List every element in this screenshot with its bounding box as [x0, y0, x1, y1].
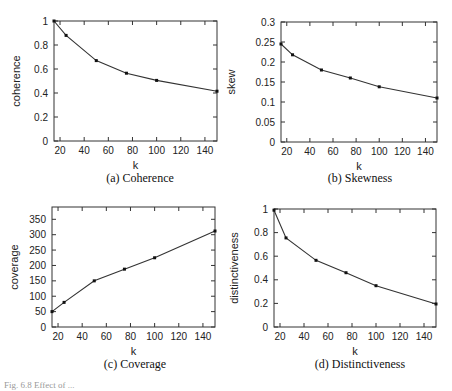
x-tick-label: 120 [172, 145, 189, 156]
x-axis-label: k [133, 159, 139, 171]
x-tick-label: 120 [170, 331, 187, 342]
y-tick-label: 1 [262, 204, 268, 215]
plot-frame [52, 207, 215, 327]
y-tick-label: 0.6 [254, 251, 268, 262]
data-point [285, 236, 288, 239]
caption-coverage: (c) Coverage [65, 357, 205, 372]
y-axis-label: distinctiveness [228, 232, 240, 304]
chart-coverage: 20406080100120140050100150200250300350kc… [0, 0, 452, 391]
data-point [216, 90, 219, 93]
y-tick-label: 0.3 [261, 17, 275, 28]
y-tick-label: 0.2 [254, 298, 268, 309]
y-tick-label: 300 [29, 229, 46, 240]
y-tick-label: 0.2 [34, 112, 48, 123]
y-tick-label: 0 [269, 137, 275, 148]
y-tick-label: 1 [42, 16, 48, 27]
x-tick-label: 80 [346, 331, 358, 342]
data-point [214, 230, 217, 233]
x-axis-label: k [352, 345, 358, 357]
x-tick-label: 20 [52, 331, 64, 342]
data-point [95, 59, 98, 62]
caption-skewness: (b) Skewness [290, 171, 430, 186]
y-tick-label: 200 [29, 260, 46, 271]
data-point [51, 310, 54, 313]
plot-frame [274, 209, 436, 327]
y-axis-label: coverage [8, 244, 20, 289]
data-point [273, 209, 276, 212]
x-tick-label: 140 [197, 145, 214, 156]
y-tick-label: 0.6 [34, 64, 48, 75]
y-tick-label: 350 [29, 214, 46, 225]
plot-frame [54, 21, 217, 141]
data-line [52, 231, 215, 312]
x-tick-label: 40 [79, 145, 91, 156]
x-tick-label: 140 [195, 331, 212, 342]
x-tick-label: 80 [351, 146, 363, 157]
y-tick-label: 0 [42, 136, 48, 147]
data-point [93, 279, 96, 282]
y-tick-label: 0 [40, 322, 46, 333]
chart-distinctiveness: 2040608010012014000.20.40.60.81kdistinct… [0, 0, 452, 391]
x-tick-label: 80 [127, 145, 139, 156]
data-point [153, 256, 156, 259]
y-tick-label: 50 [35, 306, 47, 317]
plot-frame [281, 22, 437, 142]
x-tick-label: 60 [101, 331, 113, 342]
chart-coherence: 2040608010012014000.20.40.60.81kcoherenc… [0, 0, 452, 391]
data-line [274, 210, 436, 304]
x-tick-label: 40 [298, 331, 310, 342]
data-point [53, 20, 56, 23]
data-point [63, 301, 66, 304]
y-tick-label: 0.8 [34, 40, 48, 51]
data-point [378, 85, 381, 88]
x-tick-label: 100 [371, 146, 388, 157]
y-tick-label: 0.25 [256, 37, 276, 48]
chart-skewness: 2040608010012014000.050.10.150.20.250.3k… [0, 0, 452, 391]
y-tick-label: 0.15 [256, 77, 276, 88]
x-tick-label: 120 [394, 146, 411, 157]
y-axis-label: coherence [10, 55, 22, 106]
x-tick-label: 60 [103, 145, 115, 156]
y-tick-label: 0 [262, 322, 268, 333]
data-point [375, 284, 378, 287]
x-tick-label: 60 [327, 146, 339, 157]
data-line [54, 21, 217, 91]
data-point [125, 72, 128, 75]
data-point [155, 79, 158, 82]
x-tick-label: 40 [304, 146, 316, 157]
data-point [349, 77, 352, 80]
y-tick-label: 0.2 [261, 57, 275, 68]
y-tick-label: 0.1 [261, 97, 275, 108]
x-tick-label: 100 [146, 331, 163, 342]
data-point [291, 53, 294, 56]
figure-caption: Fig. 6.8 Effect of ... [4, 380, 75, 390]
y-tick-label: 0.8 [254, 227, 268, 238]
data-point [435, 302, 438, 305]
data-point [280, 43, 283, 46]
x-tick-label: 60 [322, 331, 334, 342]
x-tick-label: 140 [417, 146, 434, 157]
data-point [436, 97, 439, 100]
data-point [315, 259, 318, 262]
y-tick-label: 100 [29, 291, 46, 302]
y-tick-label: 250 [29, 245, 46, 256]
caption-coherence: (a) Coherence [70, 171, 210, 186]
y-tick-label: 0.05 [256, 117, 276, 128]
y-tick-label: 0.4 [34, 88, 48, 99]
x-tick-label: 140 [416, 331, 433, 342]
x-tick-label: 120 [392, 331, 409, 342]
data-point [320, 69, 323, 72]
x-tick-label: 20 [54, 145, 66, 156]
data-point [65, 34, 68, 37]
y-tick-label: 150 [29, 275, 46, 286]
x-tick-label: 20 [281, 146, 293, 157]
y-axis-label: skew [225, 69, 237, 94]
x-tick-label: 100 [368, 331, 385, 342]
data-line [281, 44, 437, 98]
x-tick-label: 20 [274, 331, 286, 342]
data-point [123, 268, 126, 271]
data-point [345, 271, 348, 274]
x-tick-label: 40 [77, 331, 89, 342]
x-tick-label: 100 [148, 145, 165, 156]
x-axis-label: k [131, 345, 137, 357]
